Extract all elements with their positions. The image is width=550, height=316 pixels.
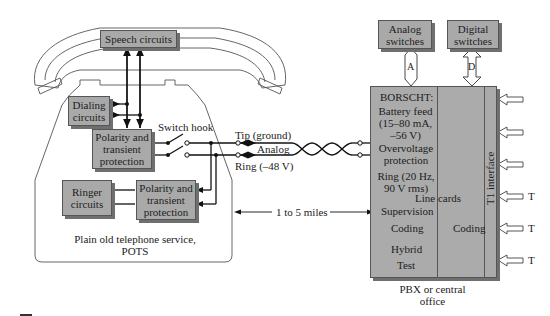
digital-switches-line-1: Digital: [458, 23, 489, 35]
pbx-caption-line-1: PBX or central: [395, 283, 470, 295]
polarity-protection-box-1: Polarity and transient protection: [92, 129, 152, 169]
t1-interface-label: T1 interface: [484, 152, 496, 205]
analog-switches-box: Analog switches: [378, 20, 432, 49]
overvoltage-line-1: Overvoltage: [376, 142, 436, 154]
ring-gen-line-1: Ring (20 Hz,: [376, 170, 436, 182]
overvoltage-label: Overvoltage protection: [376, 142, 436, 166]
supervision-label: Supervision: [381, 205, 434, 217]
battery-feed-label: Battery feed (15–80 mA, –56 V): [378, 105, 433, 141]
pots-caption-line-1: Plain old telephone service,: [70, 233, 200, 245]
pots-caption-line-2: POTS: [70, 245, 200, 257]
d-connector-label: D: [468, 61, 475, 73]
digital-switches-box: Digital switches: [447, 20, 499, 49]
battery-line-3: –56 V): [378, 129, 433, 141]
borscht-label: BORSCHT:: [380, 91, 433, 103]
tip-label: Tip (ground): [235, 129, 291, 141]
battery-line-1: Battery feed: [378, 105, 433, 117]
battery-line-2: (15–80 mA,: [378, 117, 433, 129]
t-label-2: T: [528, 222, 535, 234]
t-label-1: T: [528, 190, 535, 202]
dialing-label-2: circuits: [73, 111, 105, 123]
ring-label: Ring (–48 V): [235, 160, 293, 172]
polarity1-line-2: transient: [103, 143, 141, 155]
speech-circuits-label: Speech circuits: [105, 33, 172, 45]
polarity2-line-1: Polarity and: [139, 182, 192, 194]
dialing-circuits-box: Dialing circuits: [68, 96, 110, 126]
coding-right-label: Coding: [453, 222, 485, 234]
overvoltage-line-2: protection: [376, 154, 436, 166]
polarity2-line-2: transient: [147, 194, 185, 206]
polarity-protection-box-2: Polarity and transient protection: [136, 180, 196, 220]
pbx-caption-line-2: office: [395, 295, 470, 307]
polarity1-line-3: protection: [100, 155, 145, 167]
line-cards-label: Line cards: [415, 192, 461, 204]
coding-left-label: Coding: [391, 222, 423, 234]
distance-label: 1 to 5 miles: [276, 206, 328, 218]
polarity2-line-3: protection: [144, 206, 189, 218]
test-label: Test: [397, 259, 415, 271]
ringer-line-2: circuits: [71, 198, 103, 210]
analog-label: Analog: [257, 143, 289, 155]
polarity1-line-1: Polarity and: [95, 131, 148, 143]
ring-generator-label: Ring (20 Hz, 90 V rms): [376, 170, 436, 194]
ringer-circuits-box: Ringer circuits: [62, 180, 112, 216]
pots-caption: Plain old telephone service, POTS: [70, 233, 200, 257]
analog-switches-line-1: Analog: [389, 23, 421, 35]
ringer-line-1: Ringer: [72, 186, 102, 198]
digital-switches-line-2: switches: [454, 35, 492, 47]
a-connector-label: A: [407, 61, 414, 73]
dialing-label-1: Dialing: [73, 99, 106, 111]
pbx-divider: [437, 86, 438, 278]
analog-switches-line-2: switches: [386, 35, 424, 47]
speech-circuits-box: Speech circuits: [100, 30, 177, 48]
hybrid-label: Hybrid: [391, 243, 422, 255]
switch-hook-label: Switch hook: [158, 121, 213, 133]
pbx-caption: PBX or central office: [395, 283, 470, 307]
t-label-3: T: [528, 254, 535, 266]
